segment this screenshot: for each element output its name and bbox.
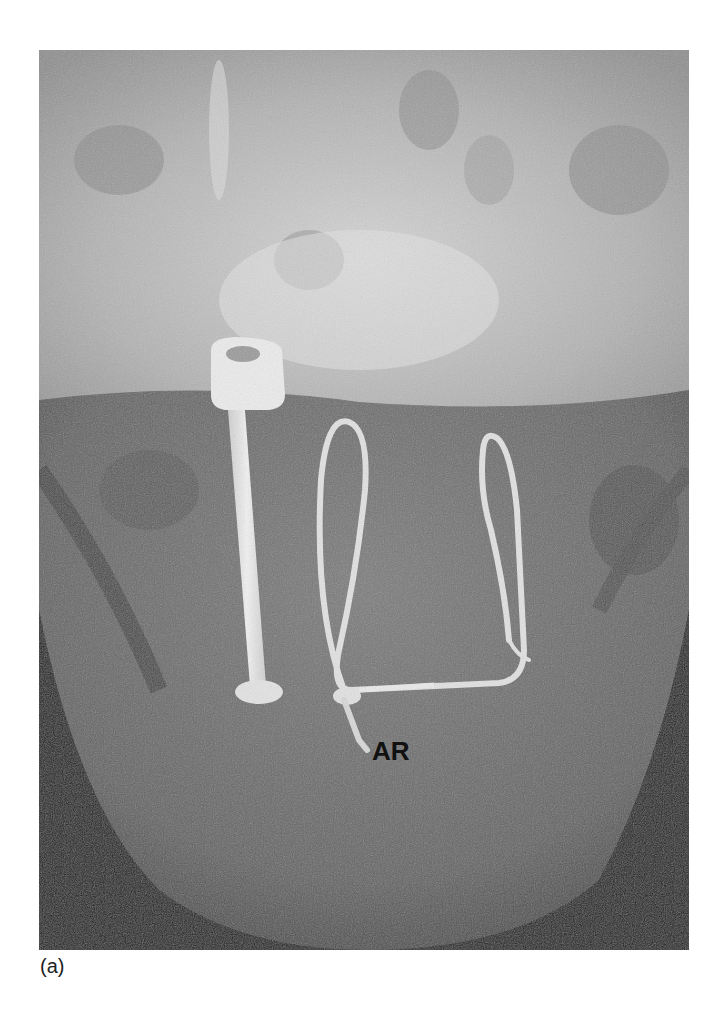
xray-image: AR (39, 50, 689, 950)
panel-caption: (a) (40, 955, 64, 978)
annotation-label: AR (372, 736, 410, 767)
xray-graphic (39, 50, 689, 950)
